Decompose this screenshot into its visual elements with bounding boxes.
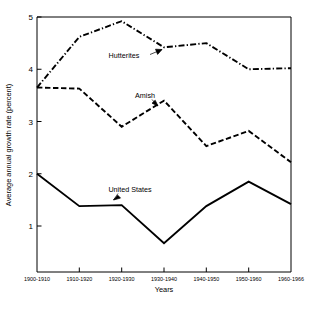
y-tick-label-4: 4 bbox=[29, 65, 34, 74]
annotation-arrowhead-hutterites bbox=[156, 49, 163, 54]
growth-rate-line-chart: 5 4 3 2 1 1900-1910 1910-1920 1920-1930 … bbox=[0, 0, 318, 311]
x-tick-label-1900-1910: 1900-1910 bbox=[24, 276, 50, 282]
series-line-united-states bbox=[37, 174, 291, 243]
x-axis-title: Years bbox=[155, 285, 174, 294]
x-axis-ticks: 1900-1910 1910-1920 1920-1930 1930-1940 … bbox=[24, 268, 304, 283]
y-axis-title: Average annual growth rate (percent) bbox=[4, 84, 13, 206]
annotation-united-states: United States bbox=[108, 185, 152, 200]
x-tick-label-1940-1950: 1940-1950 bbox=[193, 276, 219, 282]
annotation-amish: Amish bbox=[135, 91, 158, 106]
plot-border bbox=[37, 17, 291, 272]
chart-svg: 5 4 3 2 1 1900-1910 1910-1920 1920-1930 … bbox=[0, 0, 318, 311]
series-group bbox=[37, 21, 291, 243]
x-tick-label-1930-1940: 1930-1940 bbox=[151, 276, 177, 282]
y-axis-ticks: 5 4 3 2 1 bbox=[29, 13, 42, 231]
annotation-arrowhead-united-states bbox=[114, 195, 121, 200]
plot-frame bbox=[37, 17, 291, 272]
x-tick-label-1960-1966: 1960-1966 bbox=[278, 276, 304, 282]
y-tick-label-2: 2 bbox=[29, 170, 34, 179]
series-line-hutterites bbox=[37, 21, 291, 87]
x-tick-label-1920-1930: 1920-1930 bbox=[109, 276, 135, 282]
annotation-label-amish: Amish bbox=[135, 91, 155, 100]
x-tick-label-1910-1920: 1910-1920 bbox=[66, 276, 92, 282]
annotation-label-united-states: United States bbox=[108, 185, 152, 194]
y-tick-label-1: 1 bbox=[29, 222, 34, 231]
x-tick-label-1950-1960: 1950-1960 bbox=[236, 276, 262, 282]
annotation-label-hutterites: Hutterites bbox=[109, 51, 140, 60]
y-tick-label-3: 3 bbox=[29, 118, 34, 127]
series-line-amish bbox=[37, 88, 291, 163]
annotation-hutterites: Hutterites bbox=[109, 49, 162, 60]
y-tick-label-5: 5 bbox=[29, 13, 34, 22]
